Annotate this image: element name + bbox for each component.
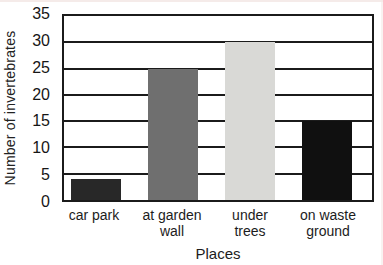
x-axis-category-labels: car parkat garden wallunder treeson wast… <box>55 207 367 239</box>
scan-edge-artifact-top <box>0 0 383 2</box>
y-tick-label-0: 0 <box>41 193 50 211</box>
bar-slot <box>57 16 134 200</box>
bar-chart-figure: Number of invertebrates 05101520253035 c… <box>0 0 383 265</box>
bar-car-park <box>71 179 121 200</box>
y-tick-label-15: 15 <box>32 112 50 130</box>
x-category-label-1: at garden wall <box>133 207 211 239</box>
y-tick-label-5: 5 <box>41 166 50 184</box>
y-tick-label-10: 10 <box>32 139 50 157</box>
x-axis-title: Places <box>62 245 374 262</box>
x-category-label-0: car park <box>55 207 133 239</box>
bars-layer <box>57 16 365 200</box>
y-tick-label-25: 25 <box>32 59 50 77</box>
bar-under-trees <box>225 42 275 200</box>
x-category-label-2: under trees <box>211 207 289 239</box>
bar-on-waste-ground <box>302 121 352 200</box>
x-category-label-3: on waste ground <box>289 207 367 239</box>
y-tick-label-35: 35 <box>32 5 50 23</box>
bar-slot <box>288 16 365 200</box>
y-tick-label-30: 30 <box>32 32 50 50</box>
y-axis-tick-labels: 05101520253035 <box>0 14 56 202</box>
bar-at-garden-wall <box>148 69 198 200</box>
bar-slot <box>134 16 211 200</box>
bar-slot <box>211 16 288 200</box>
y-tick-label-20: 20 <box>32 86 50 104</box>
plot-area <box>62 14 374 202</box>
